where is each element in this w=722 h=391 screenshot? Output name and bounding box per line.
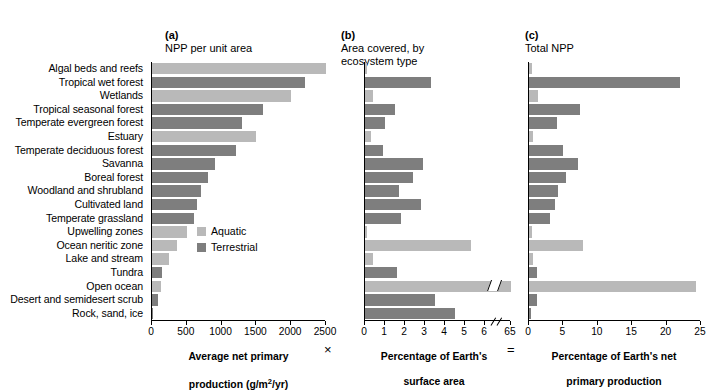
panel-c-plot: [528, 62, 701, 320]
axis-tick: [444, 321, 445, 325]
panel-c-axis-title: Percentage of Earth's net primary produc…: [510, 338, 718, 388]
bar: [365, 117, 385, 128]
bar: [529, 213, 550, 224]
bar-row: [529, 130, 701, 144]
bar-row: [529, 171, 701, 185]
category-label: Lake and stream: [0, 252, 146, 266]
bar: [152, 63, 326, 74]
bar-row: [152, 89, 326, 103]
panel-a-plot: [151, 62, 326, 320]
bar: [152, 267, 162, 278]
bar: [365, 199, 421, 210]
axis-tick: [151, 321, 152, 325]
bar: [152, 77, 305, 88]
bar: [152, 158, 215, 169]
bar: [152, 253, 169, 264]
bar-row: [152, 307, 326, 321]
bar-row: [529, 252, 701, 266]
axis-tick-label-break: 65: [504, 326, 515, 337]
bar-row: [152, 266, 326, 280]
panel-a-axis-title-line2: production (g/m: [189, 379, 268, 390]
panel-a-axis-title-line2-end: /yr): [272, 379, 288, 390]
category-label: Temperate evergreen forest: [0, 116, 146, 130]
bar: [529, 199, 555, 210]
bar: [152, 226, 187, 237]
bar: [529, 104, 580, 115]
bar: [152, 308, 153, 319]
bar: [365, 104, 395, 115]
bar: [152, 104, 263, 115]
category-label: Boreal forest: [0, 171, 146, 185]
bar: [365, 131, 371, 142]
axis-tick: [255, 321, 256, 325]
bar: [365, 294, 435, 305]
bar-row: [365, 103, 511, 117]
axis-tick-label: 1000: [209, 326, 232, 337]
bar-row: [365, 116, 511, 130]
panel-b-axis-title-line2: surface area: [403, 376, 464, 387]
bar-row: [529, 307, 701, 321]
bar: [529, 117, 557, 128]
panel-b-axis-title-line1: Percentage of Earth's: [381, 351, 487, 362]
legend-item: Terrestrial: [197, 240, 258, 254]
bar: [365, 77, 431, 88]
bar: [152, 281, 161, 292]
axis-tick: [464, 321, 465, 325]
bar-row: [152, 116, 326, 130]
bar-row: [529, 157, 701, 171]
bar-row: [152, 62, 326, 76]
bar-row: [152, 130, 326, 144]
bar-row: [365, 252, 511, 266]
bar: [529, 308, 531, 319]
bar: [529, 145, 563, 156]
bar: [365, 253, 373, 264]
bar-row: [529, 62, 701, 76]
bar: [529, 158, 578, 169]
legend: AquaticTerrestrial: [197, 224, 258, 256]
panel-c-axis-title-line2: primary production: [566, 376, 661, 387]
panel-a-title-text: NPP per unit area: [165, 42, 252, 54]
bar: [152, 117, 242, 128]
category-label: Desert and semidesert scrub: [0, 293, 146, 307]
bar-row: [529, 293, 701, 307]
bar-row: [529, 212, 701, 226]
bar-row: [152, 198, 326, 212]
bar-row: [365, 171, 511, 185]
bar: [529, 253, 533, 264]
category-label: Tropical seasonal forest: [0, 103, 146, 117]
axis-tick-label: 0: [361, 326, 367, 337]
bar-row: [365, 130, 511, 144]
axis-tick: [484, 321, 485, 325]
bar-row: [365, 184, 511, 198]
bar-row: [152, 144, 326, 158]
bar: [152, 172, 208, 183]
bar-row: [529, 184, 701, 198]
bar: [152, 240, 177, 251]
panel-b-axis-title: Percentage of Earth's surface area: [334, 338, 534, 388]
panel-a-title-prefix: (a): [165, 29, 178, 41]
bar-row: [529, 103, 701, 117]
category-label: Ocean neritic zone: [0, 239, 146, 253]
category-label: Estuary: [0, 130, 146, 144]
panel-c-title-prefix: (c): [525, 29, 538, 41]
axis-tick-label: 20: [660, 326, 671, 337]
legend-label: Aquatic: [211, 225, 246, 237]
bar: [529, 77, 680, 88]
category-label: Rock, sand, ice: [0, 307, 146, 321]
bar: [529, 63, 532, 74]
bar: [529, 185, 558, 196]
bar: [365, 90, 373, 101]
bar-row: [365, 198, 511, 212]
axis-tick: [364, 321, 365, 325]
category-label: Cultivated land: [0, 198, 146, 212]
axis-tick-label: 15: [626, 326, 637, 337]
axis-tick: [631, 321, 632, 325]
axis-tick: [597, 321, 598, 325]
axis-tick-label: 1500: [244, 326, 267, 337]
bar-row: [152, 103, 326, 117]
bar: [152, 213, 194, 224]
bar-row: [529, 239, 701, 253]
axis-tick: [186, 321, 187, 325]
category-label: Savanna: [0, 157, 146, 171]
